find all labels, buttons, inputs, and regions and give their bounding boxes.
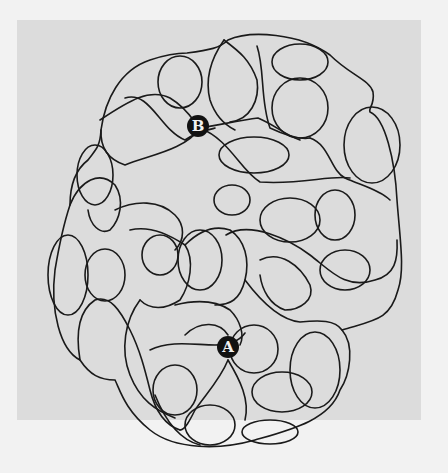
maze-point-a: A [217,336,239,358]
maze-outer-boundary [54,35,402,447]
maze-point-b: B [187,115,209,137]
maze-drawing [0,0,448,473]
